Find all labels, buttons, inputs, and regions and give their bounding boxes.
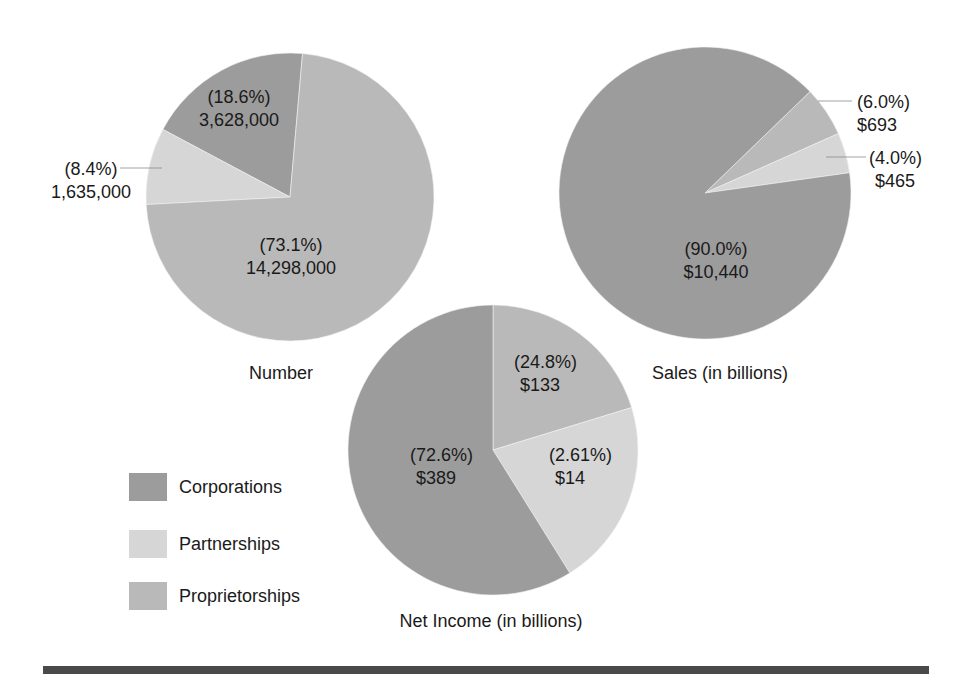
- legend-label: Proprietorships: [179, 586, 300, 607]
- slice-percent-label: (73.1%): [259, 235, 322, 255]
- slice-value-label: $693: [857, 115, 897, 135]
- slice-percent-label: (6.0%): [857, 92, 910, 112]
- slice-percent-label: (2.61%): [549, 445, 612, 465]
- slice-value-label: $133: [520, 375, 560, 395]
- slice-percent-label: (8.4%): [64, 159, 117, 179]
- slice-value-label: $465: [875, 171, 915, 191]
- slice-value-label: 1,635,000: [51, 182, 131, 202]
- legend-swatch-partnerships: [129, 530, 167, 558]
- legend-item-proprietorships: Proprietorships: [129, 582, 349, 610]
- slice-percent-label: (18.6%): [207, 87, 270, 107]
- bottom-divider-rule: [43, 666, 929, 674]
- pie-sales: (6.0%)$693(4.0%)$465(90.0%)$10,440Sales …: [559, 47, 922, 383]
- slice-percent-label: (4.0%): [869, 148, 922, 168]
- slice-percent-label: (90.0%): [684, 239, 747, 259]
- slice-value-label: $14: [555, 468, 585, 488]
- legend-item-corporations: Corporations: [129, 473, 349, 501]
- slice-percent-label: (72.6%): [410, 445, 473, 465]
- pie-title: Number: [249, 363, 313, 383]
- slice-value-label: $10,440: [683, 262, 748, 282]
- slice-percent-label: (24.8%): [514, 352, 577, 372]
- legend-swatch-corporations: [129, 473, 167, 501]
- legend-item-partnerships: Partnerships: [129, 530, 349, 558]
- slice-value-label: 3,628,000: [199, 110, 279, 130]
- pie-net-income: (24.8%)$133(72.6%)$389(2.61%)$14Net Inco…: [348, 305, 638, 631]
- pie-title: Sales (in billions): [652, 363, 788, 383]
- legend-label: Partnerships: [179, 534, 280, 555]
- pie-slice-corporations: [559, 47, 851, 339]
- pie-title: Net Income (in billions): [399, 611, 582, 631]
- pie-number: (18.6%)3,628,000(8.4%)1,635,000(73.1%)14…: [51, 53, 434, 383]
- pie-chart-figure: (18.6%)3,628,000(8.4%)1,635,000(73.1%)14…: [0, 0, 964, 687]
- slice-value-label: $389: [416, 468, 456, 488]
- legend-label: Corporations: [179, 477, 282, 498]
- legend-swatch-proprietorships: [129, 582, 167, 610]
- slice-value-label: 14,298,000: [246, 258, 336, 278]
